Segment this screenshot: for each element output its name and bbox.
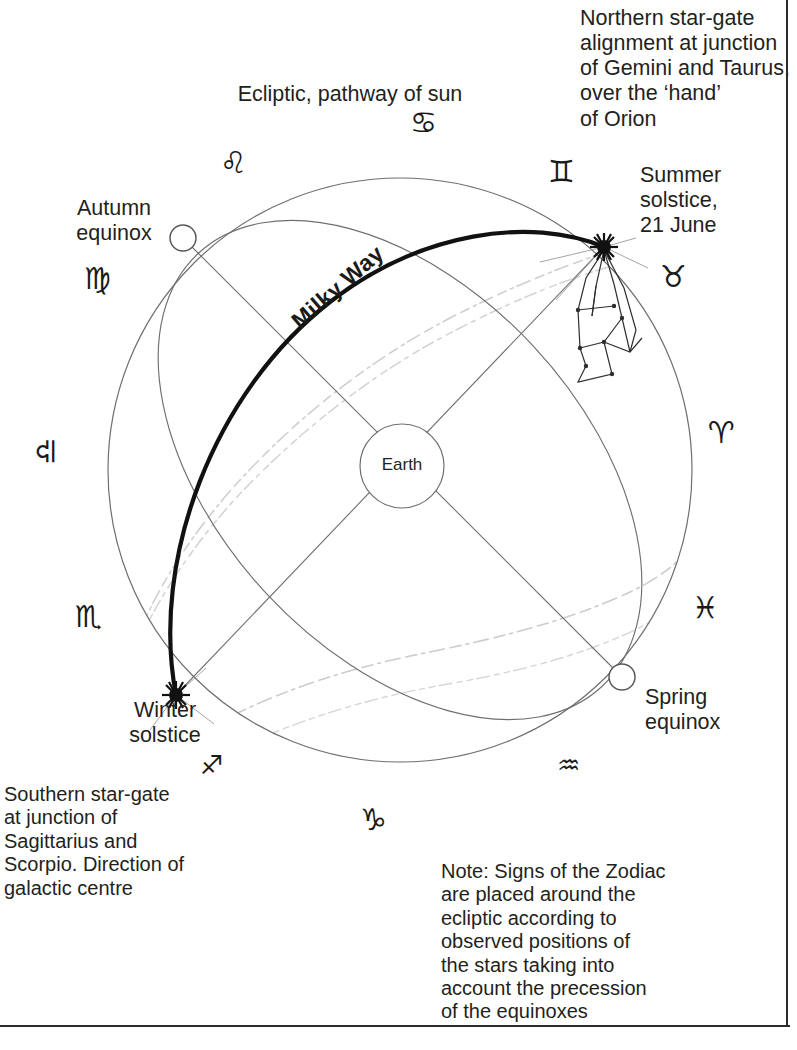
zodiac-glyph-sagittarius: ♐: [200, 752, 223, 778]
annotation-southern-star-gate: Southern star-gate at junction of Sagitt…: [4, 783, 229, 900]
zodiac-glyph-aries: ♈: [708, 418, 735, 448]
marker-summer-solstice[interactable]: [590, 233, 618, 261]
orion-constellation: [576, 250, 642, 382]
earth-label: Earth: [362, 455, 442, 475]
zodiac-glyph-leo: ♌: [220, 148, 247, 178]
zodiac-glyph-pisces: ♓: [692, 593, 719, 623]
annotation-autumn-equinox: Autumn equinox: [38, 196, 190, 246]
zodiac-glyph-gemini: ♊: [548, 157, 575, 187]
frame-bottom-rule: [0, 1025, 790, 1027]
milky-way-label-group: Milky Way: [286, 240, 388, 334]
milky-way-label: Milky Way: [286, 240, 388, 334]
marker-spring-equinox[interactable]: [609, 664, 635, 690]
zodiac-glyph-libra: ♎: [31, 438, 61, 465]
annotation-zodiac-note: Note: Signs of the Zodiac are placed aro…: [441, 860, 771, 1024]
zodiac-glyph-scorpio: ♏: [75, 602, 102, 632]
zodiac-glyph-virgo: ♍: [84, 264, 111, 294]
zodiac-glyph-cancer: ♋: [410, 108, 437, 138]
annotation-summer-solstice: Summer solstice, 21 June: [640, 163, 790, 238]
zodiac-glyph-capricorn: ♑: [360, 805, 387, 835]
zodiac-glyph-aquarius: ♒: [557, 752, 580, 778]
frame-right-rule: [786, 0, 788, 1026]
zodiac-glyph-taurus: ♉: [660, 262, 687, 292]
annotation-winter-solstice: Winter solstice: [90, 698, 240, 748]
diagram-canvas: Milky Way ♋ ♌ ♍ ♎ ♏ ♐ ♑ ♒ ♓ ♈ ♉ ♊ Northe…: [0, 0, 797, 1050]
annotation-northern-star-gate: Northern star-gate alignment at junction…: [580, 6, 795, 132]
annotation-ecliptic-title: Ecliptic, pathway of sun: [186, 82, 514, 107]
annotation-spring-equinox: Spring equinox: [645, 685, 795, 735]
